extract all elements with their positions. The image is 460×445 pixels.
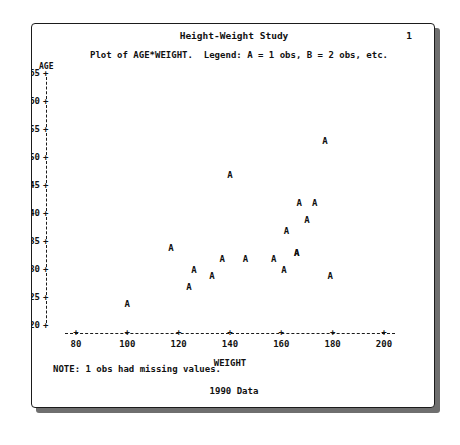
- x-tick-label: 100: [119, 339, 135, 349]
- note-text: NOTE: 1 obs had missing values.: [53, 364, 221, 374]
- data-point: A: [220, 254, 225, 263]
- report-page: Height-Weight Study 1 Plot of AGE*WEIGHT…: [31, 23, 435, 408]
- data-point: A: [281, 266, 286, 275]
- y-axis-dash-segment: [46, 133, 47, 155]
- data-point: A: [227, 170, 232, 179]
- x-tick-mark: +: [73, 327, 78, 337]
- data-point: A: [271, 254, 276, 263]
- y-tick-label: 20: [31, 320, 40, 330]
- y-tick-label: 30: [31, 264, 40, 274]
- y-axis-dash-segment: [46, 161, 47, 183]
- x-tick-label: 80: [71, 339, 82, 349]
- y-axis-dash-segment: [46, 301, 47, 323]
- y-tick-label: 35: [31, 236, 40, 246]
- data-point: A: [312, 198, 317, 207]
- x-tick-label: 160: [273, 339, 289, 349]
- y-tick-label: 40: [31, 208, 40, 218]
- data-point: A: [209, 271, 214, 280]
- y-axis-dash-segment: [46, 245, 47, 267]
- data-point: A: [297, 198, 302, 207]
- screenshot-root: Height-Weight Study 1 Plot of AGE*WEIGHT…: [0, 0, 460, 445]
- y-axis-dash-segment: [46, 105, 47, 127]
- data-point: A: [243, 254, 248, 263]
- y-tick-label: 65: [31, 68, 40, 78]
- data-point: A: [186, 282, 191, 291]
- x-tick-mark: +: [279, 327, 284, 337]
- x-tick-mark: +: [176, 327, 181, 337]
- data-point: A: [191, 266, 196, 275]
- y-tick-label: 45: [31, 180, 40, 190]
- scatter-plot: AGE 20+25+30+35+40+45+50+55+60+65+ +80+1…: [32, 24, 435, 408]
- data-point: A: [322, 137, 327, 146]
- x-tick-label: 180: [325, 339, 341, 349]
- x-tick-label: 140: [222, 339, 238, 349]
- y-axis-dash-segment: [46, 77, 47, 99]
- y-tick-label: 25: [31, 292, 40, 302]
- data-point: A: [304, 215, 309, 224]
- footer-text: 1990 Data: [32, 386, 435, 396]
- data-point: A: [294, 249, 299, 258]
- x-tick-mark: +: [381, 327, 386, 337]
- y-tick-label: 50: [31, 152, 40, 162]
- data-point: A: [125, 299, 130, 308]
- x-tick-mark: +: [125, 327, 130, 337]
- data-point: A: [168, 243, 173, 252]
- y-axis-dash-segment: [46, 273, 47, 295]
- x-tick-label: 200: [376, 339, 392, 349]
- data-point: A: [327, 271, 332, 280]
- x-tick-label: 120: [171, 339, 187, 349]
- y-tick-label: 55: [31, 124, 40, 134]
- y-tick-label: 60: [31, 96, 40, 106]
- data-point: A: [284, 226, 289, 235]
- x-tick-mark: +: [227, 327, 232, 337]
- x-tick-mark: +: [330, 327, 335, 337]
- y-axis-dash-segment: [46, 217, 47, 239]
- y-axis-dash-segment: [46, 189, 47, 211]
